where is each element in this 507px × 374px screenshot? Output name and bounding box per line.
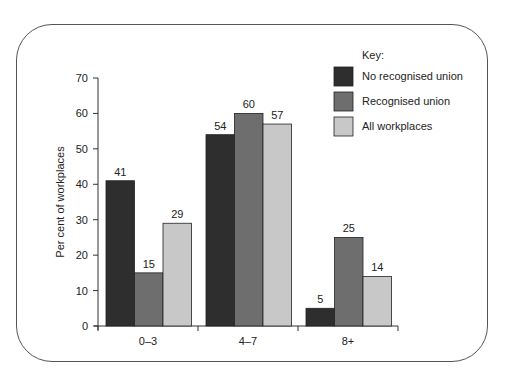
bar-value-label: 5 xyxy=(317,293,323,305)
bar-chart: 010203040506070Per cent of workplaces411… xyxy=(0,0,507,374)
y-tick-label: 20 xyxy=(76,249,88,261)
bar-value-label: 54 xyxy=(214,120,226,132)
y-tick-label: 70 xyxy=(76,72,88,84)
bar xyxy=(206,135,235,326)
y-tick-label: 30 xyxy=(76,214,88,226)
y-tick-label: 10 xyxy=(76,285,88,297)
legend-label: Recognised union xyxy=(362,95,450,107)
bar xyxy=(306,308,335,326)
bar-value-label: 15 xyxy=(143,258,155,270)
legend-label: All workplaces xyxy=(362,120,433,132)
y-tick-label: 50 xyxy=(76,143,88,155)
bar xyxy=(335,237,364,326)
legend-swatch xyxy=(334,67,353,86)
legend-swatch xyxy=(334,92,353,111)
legend-label: No recognised union xyxy=(362,70,463,82)
y-tick-label: 40 xyxy=(76,178,88,190)
y-tick-label: 0 xyxy=(82,320,88,332)
bar-value-label: 14 xyxy=(371,261,383,273)
bar xyxy=(263,124,292,326)
bar xyxy=(235,113,264,326)
bar-value-label: 60 xyxy=(243,98,255,110)
bar-value-label: 41 xyxy=(114,166,126,178)
bar xyxy=(106,181,135,326)
legend-title: Key: xyxy=(362,49,384,61)
bar-value-label: 57 xyxy=(271,109,283,121)
x-tick-label: 4–7 xyxy=(239,335,257,347)
x-tick-label: 8+ xyxy=(342,335,355,347)
bar xyxy=(135,273,164,326)
y-tick-label: 60 xyxy=(76,107,88,119)
legend-swatch xyxy=(334,117,353,136)
bar xyxy=(363,276,392,326)
x-tick-label: 0–3 xyxy=(139,335,157,347)
bar-value-label: 29 xyxy=(171,208,183,220)
bar-value-label: 25 xyxy=(343,222,355,234)
bar xyxy=(163,223,192,326)
y-axis-label: Per cent of workplaces xyxy=(54,146,66,258)
